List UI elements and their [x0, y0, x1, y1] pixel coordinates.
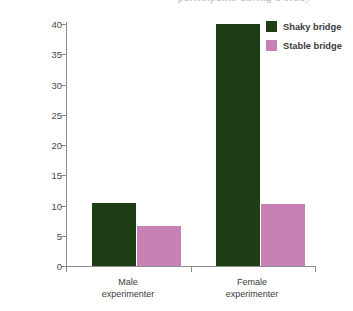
plot-area: 0510152025303540 — [66, 24, 316, 266]
y-axis-tick-label-10: 10 — [40, 200, 62, 211]
y-axis-tick-label-35: 35 — [40, 49, 62, 60]
x-category-label-female-line-2: experimenter — [197, 289, 307, 301]
x-category-label-male: Male experimenter — [73, 277, 183, 300]
bar-shaky-bridge-female-experimenter — [216, 24, 260, 266]
y-axis-tick-label-5: 5 — [40, 230, 62, 241]
x-axis-tick-left — [66, 266, 67, 272]
x-axis-tick-right — [315, 266, 316, 272]
chart-legend: Shaky bridge Stable bridge — [266, 20, 353, 58]
x-category-label-male-line-2: experimenter — [73, 289, 183, 301]
legend-swatch-icon-shaky-bridge — [266, 21, 277, 32]
bar-shaky-bridge-male-experimenter — [92, 203, 136, 266]
legend-item-shaky-bridge: Shaky bridge — [266, 20, 353, 33]
legend-item-stable-bridge: Stable bridge — [266, 39, 353, 52]
y-axis-title-line-2: called the experimenter — [0, 0, 2, 58]
y-axis-tick-label-0: 0 — [40, 261, 62, 272]
x-category-label-male-line-1: Male — [73, 277, 183, 289]
bar-stable-bridge-female-experimenter — [261, 204, 305, 266]
y-axis-tick-label-40: 40 — [40, 19, 62, 30]
y-axis-tick-label-20: 20 — [40, 140, 62, 151]
y-axis-title: Percentage of participants who called th… — [0, 0, 2, 58]
y-axis-tick-label-15: 15 — [40, 170, 62, 181]
bar-stable-bridge-male-experimenter — [137, 226, 181, 266]
y-axis-tick-label-25: 25 — [40, 109, 62, 120]
legend-label-stable-bridge: Stable bridge — [283, 41, 342, 51]
legend-swatch-icon-stable-bridge — [266, 40, 277, 51]
x-axis-tick-middle — [191, 266, 192, 272]
x-category-label-female: Female experimenter — [197, 277, 307, 300]
x-category-label-female-line-1: Female — [197, 277, 307, 289]
legend-label-shaky-bridge: Shaky bridge — [283, 22, 341, 32]
y-axis-tick-label-30: 30 — [40, 79, 62, 90]
bar-chart-figure: participants during a study Percentage o… — [0, 0, 353, 311]
clipped-title-text: participants during a study — [178, 0, 353, 3]
